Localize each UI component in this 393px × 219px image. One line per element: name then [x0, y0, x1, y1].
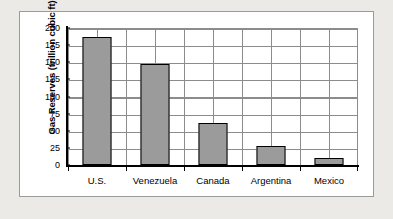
x-tick-label: Canada	[184, 175, 242, 186]
x-tick-label: Mexico	[300, 175, 358, 186]
x-tick-slot	[242, 167, 300, 173]
y-tick-mark	[66, 113, 70, 114]
bar-series	[68, 28, 358, 165]
y-tick-mark	[66, 96, 70, 97]
y-tick-label: 75	[28, 109, 66, 119]
y-tick-label: 150	[28, 57, 66, 67]
bar	[141, 64, 170, 165]
y-tick-mark	[66, 62, 70, 63]
x-tick-mark	[300, 167, 301, 171]
x-tick-slot	[184, 167, 242, 173]
bar-slot	[184, 28, 242, 165]
y-tick-label: 0	[28, 160, 66, 170]
x-tick-mark	[242, 167, 243, 171]
y-tick-label: 50	[28, 126, 66, 136]
bar-slot	[300, 28, 358, 165]
x-tick-label: Argentina	[242, 175, 300, 186]
x-tick-label: U.S.	[68, 175, 126, 186]
y-axis-tick-labels: 2001751501251007550250	[28, 28, 66, 165]
x-tick-mark	[68, 167, 69, 171]
y-tick-mark	[66, 28, 70, 29]
bar	[83, 37, 112, 165]
x-tick-label: Venezuela	[126, 175, 184, 186]
x-tick-mark	[357, 167, 358, 171]
bar-slot	[68, 28, 126, 165]
bar	[257, 146, 286, 165]
y-tick-label: 125	[28, 74, 66, 84]
bar	[199, 123, 228, 165]
x-tick-mark	[126, 167, 127, 171]
y-tick-mark	[66, 45, 70, 46]
x-tick-slot	[300, 167, 358, 173]
bar	[315, 158, 344, 165]
y-tick-mark	[66, 79, 70, 80]
y-tick-mark	[66, 130, 70, 131]
y-tick-label: 25	[28, 143, 66, 153]
chart-frame: Gas Reserves (trillion cubic ft) 2001751…	[19, 11, 374, 197]
y-tick-mark	[66, 147, 70, 148]
y-tick-label: 175	[28, 40, 66, 50]
x-axis-tick-marks	[68, 167, 358, 173]
y-tick-label: 100	[28, 92, 66, 102]
x-axis-tick-labels: U.S.VenezuelaCanadaArgentinaMexico	[68, 175, 358, 186]
bar-slot	[126, 28, 184, 165]
y-tick-mark	[66, 165, 70, 166]
x-tick-slot	[68, 167, 126, 173]
bar-slot	[242, 28, 300, 165]
x-tick-mark	[184, 167, 185, 171]
x-tick-slot	[126, 167, 184, 173]
y-tick-label: 200	[28, 23, 66, 33]
